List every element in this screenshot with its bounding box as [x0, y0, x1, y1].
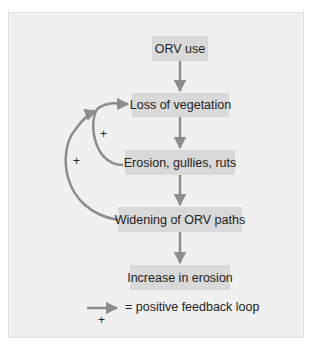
legend-sign: + — [98, 314, 105, 326]
node-increase: Increase in erosion — [130, 265, 230, 290]
node-widening: Widening of ORV paths — [118, 207, 242, 232]
legend-text: = positive feedback loop — [125, 300, 259, 314]
node-label: ORV use — [155, 42, 206, 56]
outer-loop-sign: + — [73, 155, 80, 167]
inner-loop-sign: + — [100, 128, 107, 140]
node-label: Widening of ORV paths — [115, 213, 245, 227]
node-loss-of-vegetation: Loss of vegetation — [132, 93, 229, 117]
node-label: Loss of vegetation — [130, 98, 231, 112]
node-label: Increase in erosion — [127, 271, 233, 285]
node-erosion: Erosion, gullies, ruts — [125, 150, 235, 175]
node-orv-use: ORV use — [152, 36, 208, 61]
node-label: Erosion, gullies, ruts — [124, 156, 237, 170]
